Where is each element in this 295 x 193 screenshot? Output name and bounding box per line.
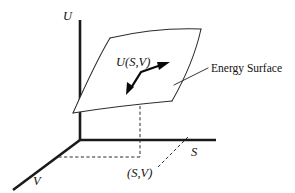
figure-canvas: U S V U(S,V) (S,V) Energy Surface (0, 0, 295, 193)
s-axis-label: S (191, 145, 198, 159)
projection-point-label: (S,V) (127, 166, 152, 180)
u-axis-label: U (63, 9, 73, 23)
energy-surface-callout-label: Energy Surface (211, 62, 282, 75)
v-axis-line (13, 140, 80, 190)
gradient-arrow-label: U(S,V) (116, 55, 150, 69)
thermodynamic-energy-surface-figure: U S V U(S,V) (S,V) Energy Surface (0, 0, 295, 193)
energy-surface-group (73, 29, 201, 113)
v-axis-label: V (33, 174, 42, 188)
projection-guides-group (57, 106, 189, 167)
